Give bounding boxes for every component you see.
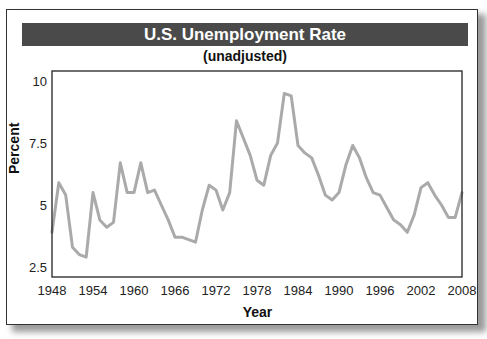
plot-border xyxy=(52,71,462,277)
x-tick-label: 2008 xyxy=(448,283,477,298)
x-tick-label: 1990 xyxy=(325,283,354,298)
x-tick-label: 1978 xyxy=(243,283,272,298)
x-tick-label: 1960 xyxy=(120,283,149,298)
y-tick-label: 5 xyxy=(40,198,47,213)
x-tick-label: 1972 xyxy=(202,283,231,298)
x-axis-ticks: 1948195419601966197219781984199019962002… xyxy=(38,283,477,298)
plot-area: 2.557.510 194819541960196619721978198419… xyxy=(0,0,487,339)
x-tick-label: 1996 xyxy=(366,283,395,298)
y-tick-label: 10 xyxy=(33,74,47,89)
x-tick-label: 1948 xyxy=(38,283,67,298)
unemployment-line xyxy=(52,93,462,257)
x-tick-label: 1954 xyxy=(79,283,108,298)
y-tick-label: 7.5 xyxy=(29,136,47,151)
y-tick-label: 2.5 xyxy=(29,260,47,275)
x-tick-label: 1966 xyxy=(161,283,190,298)
x-tick-label: 1984 xyxy=(284,283,313,298)
x-tick-label: 2002 xyxy=(407,283,436,298)
y-axis-ticks: 2.557.510 xyxy=(29,74,47,275)
